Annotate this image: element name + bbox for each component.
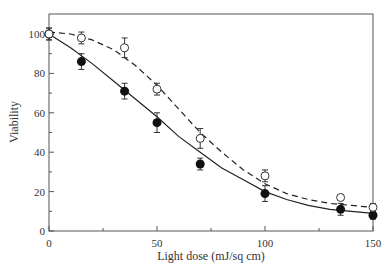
y-tick-label: 100 bbox=[29, 28, 46, 40]
open-data-point bbox=[337, 194, 345, 202]
open-data-point bbox=[261, 172, 269, 180]
y-tick-label: 40 bbox=[34, 146, 46, 158]
open-data-point bbox=[121, 44, 129, 52]
filled-data-point bbox=[120, 87, 129, 96]
y-tick-label: 60 bbox=[34, 107, 46, 119]
filled-data-point bbox=[196, 160, 205, 169]
y-tick-label: 80 bbox=[34, 67, 46, 79]
open-data-point bbox=[153, 85, 161, 93]
x-axis-label: Light dose (mJ/sq cm) bbox=[157, 249, 265, 263]
y-axis-label: Viability bbox=[7, 101, 21, 143]
plot-border bbox=[49, 14, 373, 231]
solid-fit-curve bbox=[49, 34, 373, 213]
dashed-fit-curve bbox=[49, 32, 373, 207]
open-data-point bbox=[45, 30, 53, 38]
filled-data-point bbox=[261, 189, 270, 198]
open-data-point bbox=[196, 134, 204, 142]
fit-curves bbox=[49, 32, 373, 213]
filled-data-point bbox=[77, 57, 86, 66]
x-tick-label: 150 bbox=[365, 237, 382, 249]
x-tick-label: 100 bbox=[257, 237, 274, 249]
open-data-point bbox=[77, 34, 85, 42]
y-tick-label: 20 bbox=[34, 186, 46, 198]
filled-data-point bbox=[369, 211, 378, 220]
x-tick-label: 0 bbox=[46, 237, 52, 249]
viability-chart: 020406080100050100150 Light dose (mJ/sq … bbox=[0, 0, 388, 275]
open-data-point bbox=[369, 203, 377, 211]
filled-data-point bbox=[153, 118, 162, 127]
filled-data-point bbox=[336, 205, 345, 214]
y-tick-label: 0 bbox=[40, 225, 46, 237]
data-points bbox=[45, 28, 378, 220]
x-tick-label: 50 bbox=[152, 237, 164, 249]
plot-frame bbox=[49, 14, 373, 231]
